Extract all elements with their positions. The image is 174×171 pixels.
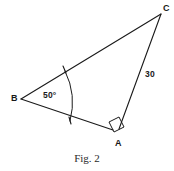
figure-caption: Fig. 2: [0, 153, 174, 164]
vertex-label-a: A: [115, 139, 122, 148]
angle-arc-b: [65, 71, 73, 121]
side-ab-line: [21, 99, 113, 130]
vertex-label-c: C: [163, 4, 170, 13]
triangle-diagram: [0, 0, 174, 171]
figure-container: B C A 50° 30 Fig. 2: [0, 0, 174, 171]
vertex-label-b: B: [11, 94, 18, 103]
angle-measure-label-b: 50°: [43, 91, 56, 100]
side-length-label-ac: 30: [145, 70, 155, 79]
side-bc-line: [21, 14, 161, 99]
